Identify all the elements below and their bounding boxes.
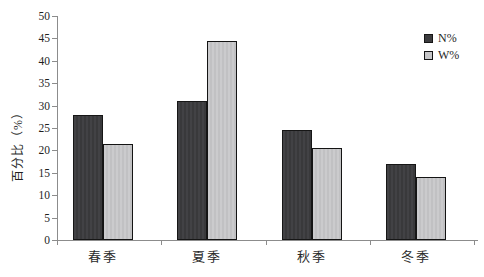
x-axis-tick bbox=[57, 241, 58, 245]
y-axis-tick-label: 0 bbox=[20, 233, 50, 247]
x-axis-tick bbox=[266, 241, 267, 245]
y-axis-tick-label: 45 bbox=[20, 31, 50, 45]
x-axis-line bbox=[57, 240, 478, 241]
y-axis-tick-label: 35 bbox=[20, 76, 50, 90]
bar-chart: 百分比（%） 05101520253035404550春季夏季秋季冬季 N%W% bbox=[0, 0, 484, 277]
y-axis-tick-label: 5 bbox=[20, 211, 50, 225]
y-axis-tick bbox=[52, 106, 57, 107]
x-category-label: 秋季 bbox=[272, 246, 352, 265]
y-axis-tick-label: 30 bbox=[20, 99, 50, 113]
legend-item-n: N% bbox=[424, 30, 459, 47]
legend-swatch-w bbox=[424, 51, 433, 60]
x-axis-tick bbox=[370, 241, 371, 245]
legend-label: W% bbox=[438, 47, 459, 64]
y-axis-tick-label: 20 bbox=[20, 143, 50, 157]
bar-w-1 bbox=[207, 41, 237, 240]
x-axis-tick bbox=[161, 241, 162, 245]
bar-w-2 bbox=[312, 148, 342, 240]
bar-n-1 bbox=[177, 101, 207, 240]
bar-w-3 bbox=[416, 177, 446, 240]
y-axis-tick bbox=[52, 16, 57, 17]
x-axis-tick bbox=[474, 241, 475, 245]
x-category-label: 春季 bbox=[63, 246, 143, 265]
bar-w-0 bbox=[103, 144, 133, 240]
y-axis-tick bbox=[52, 173, 57, 174]
y-axis-tick bbox=[52, 83, 57, 84]
y-axis-tick bbox=[52, 61, 57, 62]
legend: N%W% bbox=[424, 30, 459, 64]
bar-n-2 bbox=[282, 130, 312, 240]
y-axis-tick bbox=[52, 38, 57, 39]
y-axis-tick bbox=[52, 150, 57, 151]
bar-n-0 bbox=[73, 115, 103, 240]
bar-n-3 bbox=[386, 164, 416, 240]
legend-swatch-n bbox=[424, 34, 433, 43]
y-axis-tick bbox=[52, 128, 57, 129]
legend-label: N% bbox=[438, 30, 457, 47]
y-axis-tick-label: 25 bbox=[20, 121, 50, 135]
y-axis-tick-label: 40 bbox=[20, 54, 50, 68]
y-axis-tick-label: 15 bbox=[20, 166, 50, 180]
y-axis-tick bbox=[52, 218, 57, 219]
y-axis-tick-label: 50 bbox=[20, 9, 50, 23]
x-category-label: 冬季 bbox=[376, 246, 456, 265]
legend-item-w: W% bbox=[424, 47, 459, 64]
y-axis-line bbox=[57, 16, 58, 241]
x-category-label: 夏季 bbox=[167, 246, 247, 265]
y-axis-tick-label: 10 bbox=[20, 188, 50, 202]
y-axis-tick bbox=[52, 195, 57, 196]
